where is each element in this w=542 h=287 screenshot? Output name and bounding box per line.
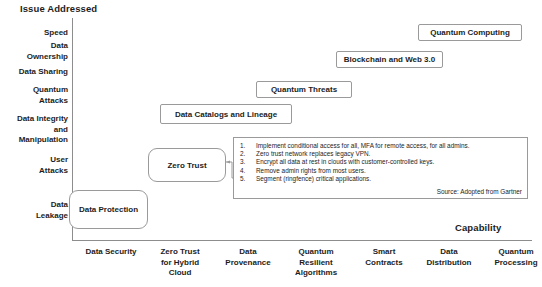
y-tick-speed-line1: Speed — [0, 28, 68, 39]
list-item-number: 1. — [240, 142, 256, 150]
node-data-catalogs-and-lineage[interactable]: Data Catalogs and Lineage — [160, 104, 292, 124]
recommendations-callout[interactable]: 1.Implement conditional access for all, … — [233, 137, 528, 199]
list-item-number: 3. — [240, 158, 256, 166]
x-tick-zero-trust-hybrid-cloud-line2: for Hybrid — [143, 258, 217, 269]
y-tick-data-leakage-line1: Data — [0, 200, 68, 211]
list-item: 4.Remove admin rights from most users. — [234, 167, 527, 175]
node-data-protection[interactable]: Data Protection — [69, 190, 148, 229]
x-tick-data-distribution: Data Distribution — [412, 247, 486, 268]
source-attribution: Source: Adopted from Gartner — [437, 188, 522, 195]
list-item-number: 5. — [240, 175, 256, 183]
y-tick-speed: Speed — [0, 28, 68, 39]
x-tick-data-provenance-line1: Data — [211, 247, 285, 258]
x-tick-data-provenance: Data Provenance — [211, 247, 285, 268]
connector-arrow-icon — [205, 160, 235, 180]
x-tick-smart-contracts: Smart Contracts — [347, 247, 421, 268]
y-tick-user-attacks-line1: User — [0, 155, 68, 166]
x-axis-line — [72, 240, 532, 241]
x-tick-data-security: Data Security — [74, 247, 148, 258]
y-tick-data-integrity-line1: Data Integrity — [0, 114, 68, 125]
y-tick-data-integrity: Data Integrity and Manipulation — [0, 114, 68, 146]
x-tick-quantum-resilient-algorithms-line1: Quantum — [279, 247, 353, 258]
x-tick-quantum-processing-line2: Processing — [479, 258, 542, 269]
x-tick-data-security-line1: Data Security — [74, 247, 148, 258]
x-tick-quantum-processing: Quantum Processing — [479, 247, 542, 268]
node-quantum-computing[interactable]: Quantum Computing — [418, 24, 522, 41]
y-tick-data-leakage-line2: Leakage — [0, 211, 68, 222]
x-tick-quantum-processing-line1: Quantum — [479, 247, 542, 258]
y-tick-quantum-attacks: Quantum Attacks — [0, 85, 68, 106]
x-tick-zero-trust-hybrid-cloud-line3: Cloud — [143, 268, 217, 279]
node-quantum-threats[interactable]: Quantum Threats — [256, 81, 352, 98]
list-item: 2.Zero trust network replaces legacy VPN… — [234, 150, 527, 158]
y-tick-user-attacks: User Attacks — [0, 155, 68, 176]
y-tick-quantum-attacks-line2: Attacks — [0, 96, 68, 107]
list-item-text: Zero trust network replaces legacy VPN. — [256, 150, 370, 157]
x-tick-quantum-resilient-algorithms-line3: Algorithms — [279, 268, 353, 279]
x-tick-data-provenance-line2: Provenance — [211, 258, 285, 269]
list-item-number: 2. — [240, 150, 256, 158]
y-tick-data-ownership-line2: Ownership — [0, 52, 68, 63]
x-tick-smart-contracts-line2: Contracts — [347, 258, 421, 269]
y-tick-data-integrity-line2: and — [0, 125, 68, 136]
y-tick-quantum-attacks-line1: Quantum — [0, 85, 68, 96]
list-item-text: Remove admin rights from most users. — [256, 167, 366, 174]
y-tick-data-leakage: Data Leakage — [0, 200, 68, 221]
y-tick-data-sharing-line1: Data Sharing — [0, 67, 68, 78]
y-tick-data-sharing: Data Sharing — [0, 67, 68, 78]
list-item: 5.Segment (ringfence) critical applicati… — [234, 175, 527, 183]
x-axis-title: Capability — [455, 222, 501, 233]
x-tick-quantum-resilient-algorithms-line2: Resilient — [279, 258, 353, 269]
x-tick-quantum-resilient-algorithms: Quantum Resilient Algorithms — [279, 247, 353, 279]
x-tick-data-distribution-line1: Data — [412, 247, 486, 258]
x-tick-zero-trust-hybrid-cloud: Zero Trust for Hybrid Cloud — [143, 247, 217, 279]
recommendations-list: 1.Implement conditional access for all, … — [234, 138, 527, 183]
y-tick-data-ownership: Data Ownership — [0, 41, 68, 62]
list-item-text: Encrypt all data at rest in clouds with … — [256, 158, 434, 165]
node-blockchain-and-web3[interactable]: Blockchain and Web 3.0 — [336, 51, 443, 68]
y-tick-user-attacks-line2: Attacks — [0, 166, 68, 177]
x-tick-data-distribution-line2: Distribution — [412, 258, 486, 269]
y-tick-data-integrity-line3: Manipulation — [0, 135, 68, 146]
x-tick-zero-trust-hybrid-cloud-line1: Zero Trust — [143, 247, 217, 258]
y-tick-data-ownership-line1: Data — [0, 41, 68, 52]
y-axis-title: Issue Addressed — [20, 3, 97, 14]
list-item: 3.Encrypt all data at rest in clouds wit… — [234, 158, 527, 166]
list-item-text: Segment (ringfence) critical application… — [256, 175, 371, 182]
x-tick-smart-contracts-line1: Smart — [347, 247, 421, 258]
list-item-text: Implement conditional access for all, MF… — [256, 142, 469, 149]
list-item: 1.Implement conditional access for all, … — [234, 142, 527, 150]
list-item-number: 4. — [240, 167, 256, 175]
